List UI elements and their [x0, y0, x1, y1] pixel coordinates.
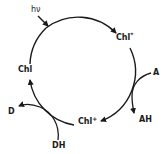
arc-chl-to-chl-excited	[46, 17, 116, 33]
light-label: hν	[31, 6, 41, 14]
light-input-arrow	[38, 16, 48, 26]
arc-chl-excited-to-chl-oxidized	[101, 48, 135, 121]
oxidized-superscript: +	[92, 115, 97, 122]
chl-oxidized-text: Chl	[78, 117, 92, 126]
donor-label: D	[8, 108, 15, 116]
reduced-acceptor-label: AH	[139, 116, 152, 124]
chl-excited-label: Chl*	[116, 34, 133, 42]
arc-chl-oxidized-to-chl	[30, 80, 74, 125]
chl-oxidized-label: Chl+	[78, 118, 97, 126]
reduced-donor-label: DH	[52, 142, 65, 150]
excited-superscript: *	[130, 31, 133, 38]
cycle-diagram	[0, 0, 167, 154]
acceptor-label: A	[153, 69, 159, 77]
arc-chl-up	[30, 28, 46, 64]
chl-excited-text: Chl	[116, 33, 130, 42]
chl-ground-label: Chl	[18, 66, 32, 74]
donor-arrow	[19, 105, 58, 140]
